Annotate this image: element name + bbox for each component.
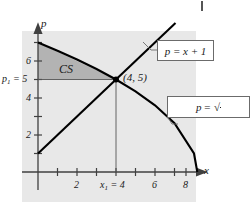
p1-subscript: 1	[7, 78, 11, 86]
y-tick-label-6: 6	[26, 56, 31, 66]
y-tick-label-2: 2	[26, 130, 31, 140]
demand-equation-box: p = √	[167, 96, 250, 118]
x-tick-label-x1: x1 = 4	[100, 180, 125, 192]
x1-value: = 4	[110, 179, 124, 190]
x-tick-label-8: 8	[183, 180, 188, 190]
x-tick-label-2: 2	[74, 180, 79, 190]
consumer-surplus-label: CS	[59, 62, 73, 77]
supply-equation-text: p = x + 1	[165, 45, 207, 57]
demand-equation-radicand	[220, 107, 221, 108]
x-axis-name: x	[204, 165, 209, 176]
supply-equation-box: p = x + 1	[157, 40, 214, 61]
supply-line	[38, 23, 176, 154]
supply-demand-figure: p x CS (4, 5) 6 4 2 p1 = 5 2 6 8 x1 = 4 …	[0, 0, 252, 202]
x-tick-label-6: 6	[152, 180, 157, 190]
x1-subscript: 1	[104, 184, 108, 192]
demand-equation-lhs: p	[196, 101, 202, 113]
y-tick-label-p1: p1 = 5	[2, 74, 27, 86]
y-tick-label-4: 4	[26, 93, 31, 103]
demand-equation-equals: =	[204, 101, 211, 113]
equilibrium-point-label: (4, 5)	[123, 72, 147, 83]
p1-value: = 5	[13, 73, 27, 84]
equilibrium-point-dot	[113, 77, 119, 83]
radical-sign: √	[213, 101, 220, 113]
y-axis-name: p	[41, 18, 47, 29]
